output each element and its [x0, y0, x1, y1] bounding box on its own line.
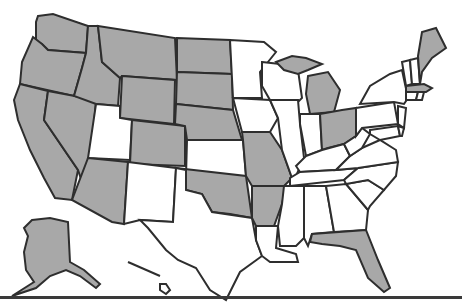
state-hi[interactable]	[160, 284, 170, 294]
state-de[interactable]	[398, 126, 404, 136]
state-mi[interactable]	[306, 72, 340, 114]
state-co[interactable]	[130, 120, 185, 166]
state-ny[interactable]	[360, 70, 408, 104]
state-ak[interactable]	[12, 218, 100, 296]
state-ri[interactable]	[416, 92, 424, 100]
state-hi-chain	[128, 262, 160, 276]
state-nj[interactable]	[398, 106, 406, 128]
state-wy[interactable]	[120, 76, 175, 124]
state-ma[interactable]	[406, 84, 432, 92]
us-map	[0, 0, 462, 306]
state-nd[interactable]	[177, 38, 232, 74]
state-nm[interactable]	[124, 162, 176, 224]
state-me[interactable]	[418, 28, 446, 84]
state-fl[interactable]	[310, 230, 390, 292]
bottom-rule	[0, 296, 462, 299]
state-md[interactable]	[370, 126, 400, 140]
